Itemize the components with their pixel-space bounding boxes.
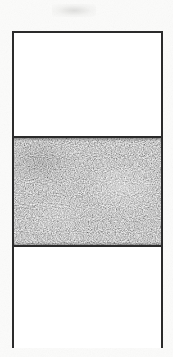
stipple-texture-icon: [14, 138, 161, 245]
band-lower-clear: [14, 247, 161, 348]
band-upper-clear: [14, 33, 161, 136]
scan-smudge-artifact: [52, 4, 96, 17]
band-middle-textured: [14, 136, 161, 247]
specimen-box: [12, 31, 163, 348]
figure-canvas: [0, 0, 173, 357]
